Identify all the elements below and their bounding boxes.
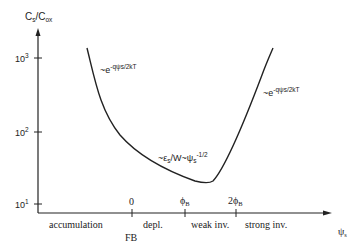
chart: Cs/Cox 103 102 101 0 FB ϕB 2ϕB ψs accumu… bbox=[0, 0, 359, 249]
x-tick-label-phib: ϕB bbox=[180, 196, 190, 208]
x-axis-title: ψs bbox=[338, 227, 347, 239]
x-axis-arrow-icon bbox=[323, 211, 332, 216]
y-axis-arrow-icon bbox=[36, 28, 41, 36]
annotation-depletion: ~εs/W~ψs-1/2 bbox=[158, 152, 208, 165]
x-tick-label-fb: FB bbox=[125, 233, 137, 243]
annotation-accumulation: ~e-qψs/2kT bbox=[100, 64, 137, 75]
x-tick-label-2phib: 2ϕB bbox=[228, 196, 243, 208]
x-tick-label-zero: 0 bbox=[129, 197, 134, 207]
region-accumulation: accumulation bbox=[49, 220, 103, 230]
y-tick-label-1e3: 103 bbox=[15, 53, 29, 64]
region-weak-inversion: weak inv. bbox=[191, 220, 229, 230]
y-axis-title: Cs/Cox bbox=[25, 12, 52, 24]
region-depletion: depl. bbox=[143, 220, 163, 230]
annotation-inversion: ~e-qψs/2kT bbox=[263, 87, 300, 98]
plot-area bbox=[0, 0, 359, 249]
y-tick-label-1e1: 101 bbox=[15, 199, 29, 210]
y-tick-label-1e2: 102 bbox=[15, 127, 29, 138]
region-strong-inversion: strong inv. bbox=[245, 220, 287, 230]
